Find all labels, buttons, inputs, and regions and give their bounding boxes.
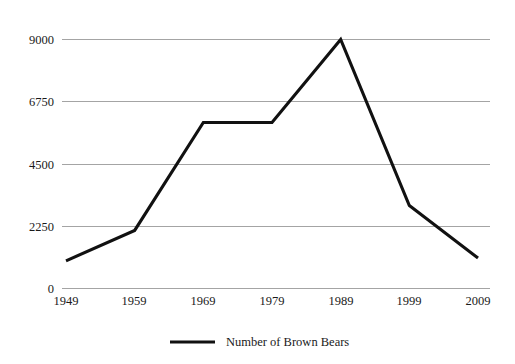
y-tick-label-2250: 2250	[29, 220, 54, 234]
x-tick-label-1959: 1959	[122, 294, 147, 308]
y-tick-label-9000: 9000	[29, 33, 54, 47]
x-tick-label-2009: 2009	[466, 294, 491, 308]
x-tick-label-1979: 1979	[260, 294, 285, 308]
x-tick-label-1949: 1949	[54, 294, 79, 308]
chart-background	[0, 0, 515, 364]
x-tick-label-1989: 1989	[329, 294, 354, 308]
chart-container: 9000 6750 4500 2250 0 1949 1959 1969 197…	[0, 0, 515, 364]
y-tick-label-6750: 6750	[29, 95, 54, 109]
legend-entry-label: Number of Brown Bears	[226, 335, 349, 349]
x-tick-label-1999: 1999	[397, 294, 422, 308]
x-tick-label-1969: 1969	[191, 294, 216, 308]
y-tick-label-4500: 4500	[29, 158, 54, 172]
line-chart: 9000 6750 4500 2250 0 1949 1959 1969 197…	[0, 0, 515, 364]
